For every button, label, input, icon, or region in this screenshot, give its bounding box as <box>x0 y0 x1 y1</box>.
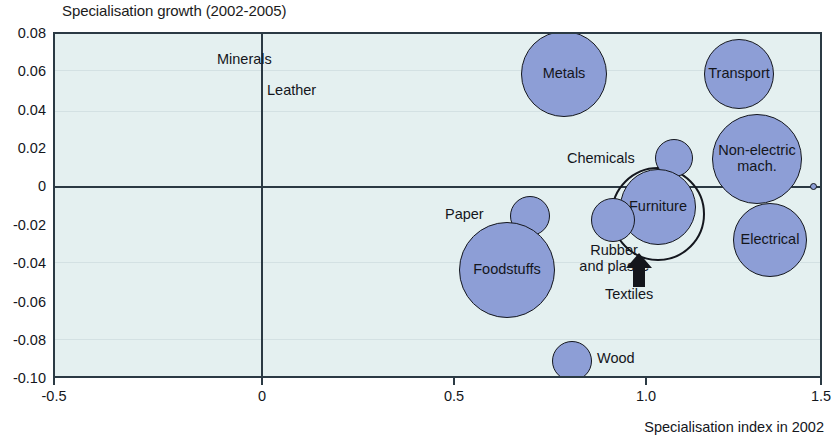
y-tick-label-3: 0.02 <box>0 140 46 156</box>
y-tick-label-1: 0.06 <box>0 63 46 79</box>
y-tick-label-7: -0.06 <box>0 294 46 310</box>
bubble-rubber-and-plastic[interactable] <box>591 198 635 242</box>
bubble-non-electric-mach[interactable] <box>712 114 802 204</box>
paper-band <box>55 262 820 263</box>
bubble-label-paper: Paper <box>445 206 484 222</box>
bubble-label-textiles: Textiles <box>605 286 653 302</box>
x-tick-0.5 <box>453 378 455 385</box>
text-label-leather: Leather <box>267 82 316 98</box>
plot-inner: Metals Transport Non-electric mach. Chem… <box>55 34 820 376</box>
x-tick-0 <box>261 378 263 385</box>
x-tick-label-1: 0 <box>232 388 292 404</box>
y-tick-label-2: 0.04 <box>0 102 46 118</box>
bubble-metals[interactable] <box>521 34 607 117</box>
x-tick-label-0: -0.5 <box>24 388 84 404</box>
bubble-transport[interactable] <box>704 39 774 109</box>
paper-band <box>55 339 820 340</box>
bubble-electrical[interactable] <box>733 203 807 277</box>
zero-line-horizontal <box>55 186 820 188</box>
bubble-foodstuffs[interactable] <box>459 222 555 318</box>
x-tick-label-4: 1.5 <box>791 388 838 404</box>
x-tick--0.5 <box>53 378 55 385</box>
y-tick-label-4: 0 <box>0 178 46 194</box>
y-tick-label-0: 0.08 <box>0 25 46 41</box>
x-axis-title: Specialisation index in 2002 <box>644 419 824 435</box>
text-label-minerals: Minerals <box>217 51 272 67</box>
bubble-wood[interactable] <box>552 341 592 376</box>
chart-title: Specialisation growth (2002-2005) <box>62 2 286 19</box>
y-tick-label-9: -0.10 <box>0 370 46 386</box>
bubble-unlabeled-small[interactable] <box>810 183 817 190</box>
y-tick-label-6: -0.04 <box>0 255 46 271</box>
x-tick-label-3: 1.0 <box>616 388 676 404</box>
bubble-label-chemicals: Chemicals <box>567 150 635 166</box>
x-tick-1.5 <box>820 378 822 385</box>
zero-line-vertical <box>261 34 263 376</box>
y-tick-label-5: -0.02 <box>0 217 46 233</box>
bubble-chart: Specialisation growth (2002-2005) 0.08 0… <box>0 0 838 437</box>
x-tick-label-2: 0.5 <box>424 388 484 404</box>
textiles-arrow-icon <box>625 252 653 288</box>
bubble-label-wood: Wood <box>597 350 635 366</box>
x-tick-1.0 <box>645 378 647 385</box>
plot-area: Metals Transport Non-electric mach. Chem… <box>53 32 822 378</box>
paper-band <box>55 111 820 112</box>
y-tick-label-8: -0.08 <box>0 332 46 348</box>
